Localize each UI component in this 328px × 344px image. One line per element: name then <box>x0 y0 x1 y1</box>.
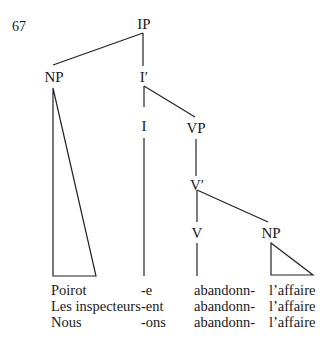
leaf-object-1: l’affaire <box>269 282 315 298</box>
leaf-inflection-2: -ent <box>141 298 164 314</box>
leaf-subject-1: Poirot <box>51 282 86 298</box>
node-np-subject: NP <box>44 70 63 85</box>
node-np-object: NP <box>261 226 280 241</box>
leaf-subject-2: Les inspecteurs <box>51 298 141 314</box>
branch-ip-np <box>53 33 143 65</box>
node-v: V <box>192 226 203 241</box>
branch-vbar-np <box>197 190 268 222</box>
leaf-inflection-1: -e <box>141 282 152 298</box>
leaf-inflection-3: -ons <box>141 314 166 330</box>
np-object-triangle <box>271 243 313 275</box>
np-subject-triangle <box>53 88 96 276</box>
node-i: I <box>142 119 147 134</box>
node-v-bar: V′ <box>190 178 204 193</box>
leaf-verb-2: abandonn- <box>194 298 255 314</box>
leaf-object-3: l’affaire <box>269 314 315 330</box>
leaf-object-2: l’affaire <box>269 298 315 314</box>
leaf-verb-3: abandonn- <box>194 314 255 330</box>
leaf-subject-3: Nous <box>51 314 82 330</box>
branch-ibar-vp <box>144 86 195 117</box>
node-ip: IP <box>137 17 150 32</box>
leaf-verb-1: abandonn- <box>194 282 255 298</box>
node-vp: VP <box>186 121 205 136</box>
node-i-bar: I′ <box>140 70 148 85</box>
